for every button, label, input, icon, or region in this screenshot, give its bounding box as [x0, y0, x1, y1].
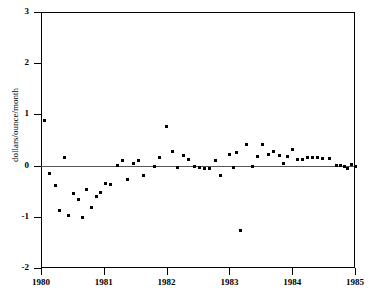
x-axis-tick-label: 1984 — [272, 277, 312, 287]
data-point — [335, 164, 338, 167]
data-point — [251, 165, 254, 168]
data-point — [316, 156, 319, 159]
chart-figure: dollars/ounce/month 3210-1-2198019811982… — [0, 0, 374, 297]
data-point — [272, 150, 275, 153]
x-axis-tick-label: 1980 — [21, 277, 61, 287]
data-point — [182, 154, 185, 157]
x-axis-tick — [355, 268, 356, 275]
data-point — [126, 178, 129, 181]
y-axis-tick-label: 0 — [5, 161, 29, 170]
data-point — [301, 158, 304, 161]
data-point — [77, 198, 80, 201]
data-point — [95, 195, 98, 198]
data-point — [286, 155, 289, 158]
data-point — [58, 209, 61, 212]
y-axis-tick — [34, 63, 41, 64]
data-point — [158, 156, 161, 159]
data-point — [85, 188, 88, 191]
y-axis-tick — [34, 217, 41, 218]
data-point — [132, 162, 135, 165]
x-axis-tick — [292, 268, 293, 275]
y-axis-tick-label: -1 — [5, 212, 29, 221]
data-point — [81, 216, 84, 219]
data-point — [109, 183, 112, 186]
data-point — [256, 155, 259, 158]
x-axis-tick — [41, 268, 42, 275]
data-point — [267, 153, 270, 156]
x-axis-tick-label: 1983 — [209, 277, 249, 287]
data-point — [153, 165, 156, 168]
data-point — [282, 162, 285, 165]
y-axis-tick-label: 2 — [5, 58, 29, 67]
x-axis-tick — [104, 268, 105, 275]
data-point — [321, 157, 324, 160]
data-point — [104, 182, 107, 185]
chart-title — [41, 0, 355, 2]
data-point — [54, 184, 57, 187]
y-axis-tick-label: 1 — [5, 109, 29, 118]
data-point — [171, 150, 174, 153]
data-point — [176, 166, 179, 169]
y-axis-tick-label: -2 — [5, 263, 29, 272]
data-point — [278, 154, 281, 157]
data-point — [116, 164, 119, 167]
x-axis-tick-label: 1982 — [147, 277, 187, 287]
x-axis-tick-label: 1985 — [335, 277, 374, 287]
plot-area — [41, 12, 355, 268]
y-axis-tick-label: 3 — [5, 7, 29, 16]
data-point — [235, 151, 238, 154]
y-axis-tick — [34, 12, 41, 13]
data-point — [228, 153, 231, 156]
data-point — [350, 163, 353, 166]
data-point — [261, 143, 264, 146]
data-point — [232, 166, 235, 169]
data-point — [354, 165, 357, 168]
data-point — [193, 165, 196, 168]
data-point — [198, 166, 201, 169]
data-point — [328, 157, 331, 160]
data-point — [67, 214, 70, 217]
data-point — [121, 159, 124, 162]
data-point — [239, 229, 242, 232]
x-axis-tick-label: 1981 — [84, 277, 124, 287]
data-point — [90, 206, 93, 209]
data-point — [245, 143, 248, 146]
data-point — [137, 159, 140, 162]
data-point — [187, 158, 190, 161]
data-point — [165, 125, 168, 128]
data-point — [339, 164, 342, 167]
data-point — [208, 167, 211, 170]
data-point — [306, 156, 309, 159]
data-point — [296, 158, 299, 161]
data-point — [219, 174, 222, 177]
x-axis-tick — [167, 268, 168, 275]
y-axis-tick — [34, 114, 41, 115]
data-point — [63, 156, 66, 159]
y-axis-tick — [34, 268, 41, 269]
data-point — [214, 159, 217, 162]
y-axis-tick — [34, 166, 41, 167]
data-point — [311, 156, 314, 159]
data-point — [142, 174, 145, 177]
x-axis-tick — [229, 268, 230, 275]
data-point — [48, 172, 51, 175]
data-point — [99, 191, 102, 194]
data-point — [43, 119, 46, 122]
data-point — [203, 167, 206, 170]
data-point — [72, 192, 75, 195]
data-point — [346, 167, 349, 170]
data-point — [291, 148, 294, 151]
